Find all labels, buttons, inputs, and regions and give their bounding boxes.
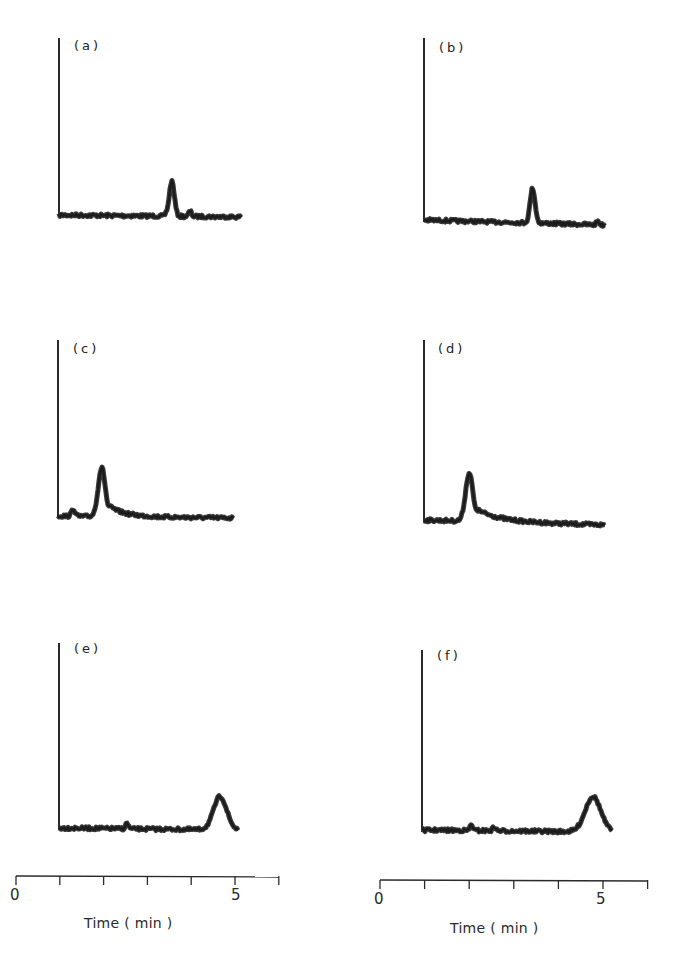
panel-label-d: (d) <box>438 341 465 356</box>
left-axis-tick-5: 5 <box>231 886 241 904</box>
chromatogram-panel-b <box>424 38 605 226</box>
chromatogram-plot-area <box>0 0 676 956</box>
panel-label-a: (a) <box>74 38 101 53</box>
time-axes <box>16 876 648 889</box>
chromatogram-trace <box>424 188 605 226</box>
chromatogram-panel-f <box>422 650 612 833</box>
chromatogram-trace-band <box>59 181 241 219</box>
chromatogram-panel-c <box>58 340 233 519</box>
chromatogram-trace <box>58 467 233 519</box>
panel-label-b: (b) <box>439 40 466 55</box>
chromatogram-figure: (a) (b) (c) (d) (e) (f) 0 5 Time ( min )… <box>0 0 676 956</box>
panel-label-c: (c) <box>73 341 99 356</box>
right-axis-title: Time ( min ) <box>450 920 539 936</box>
left-time-axis <box>16 876 279 885</box>
chromatogram-panel-a <box>59 38 241 218</box>
left-axis-tick-0: 0 <box>10 886 20 904</box>
right-time-axis <box>380 880 648 889</box>
chromatogram-panel-d <box>424 340 605 526</box>
chromatogram-panel-e <box>59 643 238 831</box>
panel-label-e: (e) <box>74 641 101 656</box>
right-axis-tick-0: 0 <box>374 890 384 908</box>
chromatogram-trace-band <box>58 467 233 519</box>
chromatogram-traces <box>58 38 612 833</box>
left-axis-title: Time ( min ) <box>84 915 173 931</box>
right-axis-tick-5: 5 <box>596 890 606 908</box>
panel-label-f: (f) <box>437 648 461 663</box>
